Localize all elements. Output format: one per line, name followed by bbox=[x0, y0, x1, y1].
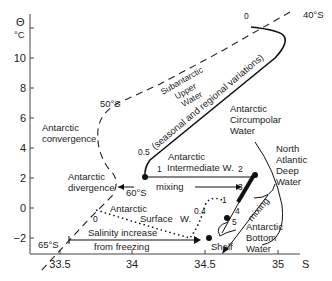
label-4: 4 bbox=[235, 206, 240, 216]
shelf-label: Shelf bbox=[211, 241, 233, 252]
aiw-point bbox=[142, 174, 148, 180]
acw-label-3: Water bbox=[230, 125, 255, 136]
label-zero-top: 0 bbox=[244, 11, 249, 21]
arrowhead-icon bbox=[118, 184, 124, 190]
label-3: 3 bbox=[238, 182, 243, 192]
y-tick-neg2: −2 bbox=[13, 232, 26, 244]
nadw-label-4: Water bbox=[276, 176, 301, 187]
y-tick-6: 6 bbox=[20, 112, 26, 124]
label-0-4: 0.4 bbox=[194, 206, 206, 216]
nadw-label-1: North bbox=[276, 143, 299, 154]
asw-label-2: Surface bbox=[140, 213, 173, 224]
y-tick-0: 0 bbox=[20, 202, 26, 214]
y-tick-4: 4 bbox=[20, 142, 26, 154]
label-50s: 50°S bbox=[100, 98, 121, 109]
label-zero-bottom: 0 bbox=[93, 214, 98, 224]
y-axis-symbol: Θ bbox=[16, 16, 25, 28]
y-tick-10: 10 bbox=[14, 52, 26, 64]
x-tick-34-5: 34.5 bbox=[194, 258, 215, 270]
x-tick-35: 35 bbox=[272, 258, 284, 270]
div-label-2: divergence bbox=[68, 182, 114, 193]
label-40s: 40°S bbox=[303, 9, 324, 20]
label-5: 5 bbox=[232, 217, 237, 227]
salinity-label-1: Salinity increase bbox=[88, 227, 157, 238]
y-tick-8: 8 bbox=[20, 82, 26, 94]
salinity-label-2: from freezing bbox=[94, 241, 149, 252]
label-60s: 60°S bbox=[126, 187, 147, 198]
abw-label-2: Bottom bbox=[246, 232, 276, 243]
aiw-label-1: Antarctic bbox=[168, 151, 205, 162]
abw-label-3: Water bbox=[246, 243, 271, 254]
conv-label-1: Antarctic bbox=[42, 122, 79, 133]
abw-point bbox=[224, 215, 230, 221]
asw-label-3: W. bbox=[180, 213, 191, 224]
nadw-point bbox=[252, 172, 258, 178]
nadw-label-2: Atlantic bbox=[276, 154, 307, 165]
ts-diagram: Θ °C 10 8 6 4 2 0 −2 33.5 34 34.5 35 S 0… bbox=[0, 0, 332, 281]
nadw-label-3: Deep bbox=[276, 165, 299, 176]
mixing-diagonal-label: mixing bbox=[245, 195, 271, 223]
y-tick-2: 2 bbox=[20, 172, 26, 184]
div-label-1: Antarctic bbox=[68, 171, 105, 182]
y-axis-unit: °C bbox=[14, 29, 25, 40]
acw-label-1: Antarctic bbox=[230, 103, 267, 114]
x-axis-symbol: S bbox=[302, 258, 309, 270]
aiw-label-2: Intermediate W. bbox=[167, 162, 234, 173]
seasonal-variations-label: (seasonal and regional variations) bbox=[149, 51, 265, 151]
acw-label-2: Circumpolar bbox=[230, 114, 281, 125]
conv-label-2: convergence bbox=[42, 133, 96, 144]
label-1b: 1 bbox=[222, 195, 227, 205]
mixing-horizontal-label: mixing bbox=[156, 181, 183, 192]
x-tick-33-5: 33.5 bbox=[49, 258, 70, 270]
label-1a: 1 bbox=[157, 164, 162, 174]
x-tick-34: 34 bbox=[126, 258, 138, 270]
label-2: 2 bbox=[238, 164, 243, 174]
label-65s: 65°S bbox=[38, 239, 59, 250]
abw-label-1: Antarctic bbox=[246, 221, 283, 232]
label-0-5: 0.5 bbox=[138, 147, 150, 157]
nadw-return-loop bbox=[254, 184, 275, 198]
arrowhead-icon bbox=[194, 236, 201, 244]
